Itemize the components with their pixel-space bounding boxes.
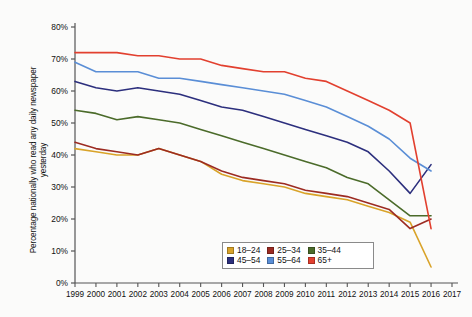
x-axis-tick-label: 2006	[213, 290, 232, 299]
legend-item[interactable]: 35–44	[308, 245, 341, 255]
y-axis-tick-group: 0%10%20%30%40%50%60%70%80%	[51, 22, 75, 288]
y-axis-tick-label: 50%	[51, 118, 68, 128]
legend-item-label: 35–44	[318, 245, 341, 255]
legend-swatch-icon	[227, 257, 234, 264]
legend-item[interactable]: 65+	[308, 255, 332, 265]
x-axis-tick-label: 2008	[254, 290, 273, 299]
legend-row-bottom: 45–5455–6465+	[227, 255, 369, 265]
series-line-45-54	[75, 81, 431, 193]
x-axis-tick-label: 2007	[233, 290, 252, 299]
legend-item[interactable]: 18–24	[227, 245, 260, 255]
x-axis-tick-label: 2002	[129, 290, 148, 299]
legend-item[interactable]: 45–54	[227, 255, 260, 265]
y-axis-tick-label: 0%	[56, 278, 69, 288]
x-axis-tick-group: 1999200020012002200320042005200620072008…	[66, 283, 462, 299]
x-axis-tick-label: 2001	[108, 290, 127, 299]
legend-item[interactable]: 55–64	[267, 255, 300, 265]
x-axis-tick-label: 2010	[296, 290, 315, 299]
x-axis-tick-label: 2012	[338, 290, 357, 299]
legend-item-label: 25–34	[277, 245, 300, 255]
series-line-35-44	[75, 110, 431, 216]
legend-swatch-icon	[267, 247, 274, 254]
legend-item-label: 55–64	[277, 255, 300, 265]
legend: 18–2425–3435–44 45–5455–6465+	[222, 242, 374, 269]
line-chart-plot: 0%10%20%30%40%50%60%70%80% 1999200020012…	[0, 0, 472, 317]
data-series-group	[75, 53, 431, 267]
legend-row-top: 18–2425–3435–44	[227, 245, 369, 255]
x-axis-tick-label: 1999	[66, 290, 85, 299]
x-axis-tick-label: 2017	[443, 290, 462, 299]
x-axis-tick-label: 2011	[318, 290, 336, 299]
x-axis-tick-label: 2000	[87, 290, 106, 299]
y-axis-tick-label: 30%	[51, 182, 68, 192]
legend-item-label: 65+	[318, 255, 332, 265]
legend-item-label: 45–54	[237, 255, 260, 265]
y-axis-tick-label: 60%	[51, 86, 68, 96]
x-axis-tick-label: 2013	[359, 290, 378, 299]
x-axis-tick-label: 2015	[401, 290, 420, 299]
x-axis-tick-label: 2014	[380, 290, 399, 299]
x-axis-tick-label: 2003	[150, 290, 169, 299]
legend-swatch-icon	[308, 257, 315, 264]
x-axis-tick-label: 2004	[171, 290, 190, 299]
y-axis-tick-label: 80%	[51, 22, 68, 32]
y-axis-tick-label: 70%	[51, 54, 68, 64]
legend-swatch-icon	[308, 247, 315, 254]
legend-swatch-icon	[227, 247, 234, 254]
x-axis-tick-label: 2009	[275, 290, 294, 299]
legend-item[interactable]: 25–34	[267, 245, 300, 255]
x-axis-tick-label: 2016	[422, 290, 441, 299]
chart-container: Percentage nationally who read any daily…	[0, 0, 472, 317]
y-axis-tick-label: 40%	[51, 150, 68, 160]
x-axis-tick-label: 2005	[192, 290, 211, 299]
legend-swatch-icon	[267, 257, 274, 264]
y-axis-tick-label: 10%	[51, 246, 68, 256]
legend-item-label: 18–24	[237, 245, 260, 255]
series-line-65+	[75, 53, 431, 229]
y-axis-tick-label: 20%	[51, 214, 68, 224]
